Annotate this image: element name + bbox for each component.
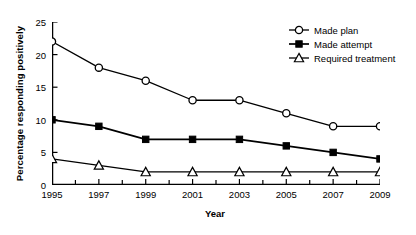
legend-label: Required treatment [314,53,395,64]
y-tick-label: 10 [24,114,46,125]
legend-item-required-treatment[interactable]: Required treatment [288,52,395,64]
legend-item-made-plan[interactable]: Made plan [288,24,395,36]
legend-marker-open-triangle-icon [288,52,310,64]
data-point-marker [52,154,57,162]
data-point-marker [189,136,195,142]
data-point-marker [52,117,55,123]
y-tick-label: 15 [24,82,46,93]
data-point-marker [296,41,302,47]
x-tick-label: 2005 [265,189,307,200]
data-point-marker [236,97,243,104]
data-point-marker [283,110,290,117]
y-tick-label: 5 [24,147,46,158]
data-point-marker [376,123,380,130]
x-axis-tick-labels: 19951997199920012003200520072009 [52,189,380,205]
data-point-marker [96,123,102,129]
x-tick-label: 1999 [125,189,167,200]
x-tick-label: 2003 [218,189,260,200]
data-point-marker [330,123,337,130]
data-point-marker [95,64,102,71]
data-point-marker [142,77,149,84]
data-point-marker [330,149,336,155]
series-required-treatment [52,154,380,175]
data-point-marker [377,156,380,162]
legend-label: Made attempt [314,39,372,50]
data-point-marker [295,26,302,33]
y-tick-label: 20 [24,49,46,60]
legend-label: Made plan [314,25,358,36]
x-tick-label: 2009 [359,189,401,200]
data-point-marker [143,136,149,142]
chart-legend: Made planMade attemptRequired treatment [288,24,395,64]
y-axis-tick-labels: 0510152025 [22,22,46,185]
data-point-marker [52,38,56,45]
x-tick-label: 1995 [31,189,73,200]
legend-item-made-attempt[interactable]: Made attempt [288,38,395,50]
data-point-marker [189,97,196,104]
legend-marker-filled-square-icon [288,38,310,50]
x-axis-title: Year [45,208,385,219]
chart-figure: Percentage responding positively Year 05… [0,0,416,235]
data-point-marker [283,143,289,149]
legend-marker-open-circle-icon [288,24,310,36]
x-tick-label: 2001 [172,189,214,200]
x-tick-label: 2007 [312,189,354,200]
x-tick-label: 1997 [78,189,120,200]
y-tick-label: 25 [24,17,46,28]
data-point-marker [236,136,242,142]
